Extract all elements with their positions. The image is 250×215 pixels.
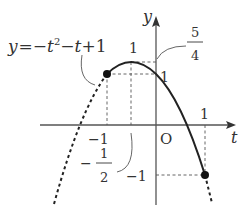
right-endpoint-dot [201,171,209,179]
left-endpoint-dot [103,70,111,78]
neg-half-denominator: 2 [100,170,108,185]
y-tick-neg1: −1 [126,168,147,184]
y-axis-label: y [142,7,153,26]
origin-label: O [160,130,172,148]
function-callout-leader [81,55,95,85]
five-fourths-callout-leader [157,46,186,59]
y-tick-1: 1 [160,69,169,85]
t-tick-1: 1 [200,106,209,122]
parabola-extension-right [205,175,212,203]
t-axis-label: t [231,128,238,147]
t-tick-neg1: −1 [88,131,109,147]
five-fourths-numerator: 5 [191,25,199,40]
neg-half-callout-leader [117,133,132,172]
top-left-one-label: 1 [129,40,138,56]
function-label: y=−t2−t+1 [7,36,107,56]
parabola-diagram: y=−t2−t+1 y t O 1 −1 1 −1 1 − 1 2 5 4 [0,0,250,215]
five-fourths-denominator: 4 [191,48,199,63]
neg-half-numerator: 1 [100,146,108,161]
neg-half-sign: − [80,155,92,171]
